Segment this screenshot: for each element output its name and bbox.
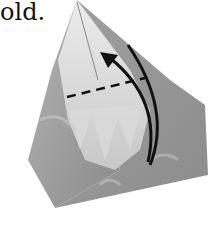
origami-pyramid-figure [0,0,210,227]
